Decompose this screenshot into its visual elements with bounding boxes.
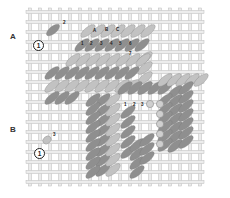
bead bbox=[156, 130, 163, 137]
step-number: 3 bbox=[100, 42, 103, 47]
step-number: 3 bbox=[141, 103, 144, 108]
step-number: C bbox=[116, 28, 119, 33]
step-number: 2 bbox=[90, 42, 93, 47]
step-number: B bbox=[105, 28, 108, 33]
start-marker: 1 bbox=[34, 148, 45, 159]
step-number: 4 bbox=[110, 42, 113, 47]
start-marker: 1 bbox=[33, 40, 44, 51]
bead bbox=[146, 100, 153, 107]
bead bbox=[156, 100, 163, 107]
step-number: 2 bbox=[133, 103, 136, 108]
section-label: A bbox=[10, 32, 16, 41]
step-number: 2 bbox=[63, 21, 66, 26]
stitch-diagram bbox=[0, 0, 230, 198]
bead bbox=[156, 110, 163, 117]
step-number: 1 bbox=[81, 42, 84, 47]
step-number: 7 bbox=[129, 52, 132, 57]
step-number: 5 bbox=[119, 42, 122, 47]
step-number: 1 bbox=[124, 103, 127, 108]
step-number: A bbox=[93, 29, 96, 34]
bead bbox=[156, 140, 163, 147]
section-label: B bbox=[10, 125, 16, 134]
bead bbox=[156, 120, 163, 127]
step-number: 6 bbox=[129, 42, 132, 47]
step-number: 3 bbox=[53, 133, 56, 138]
